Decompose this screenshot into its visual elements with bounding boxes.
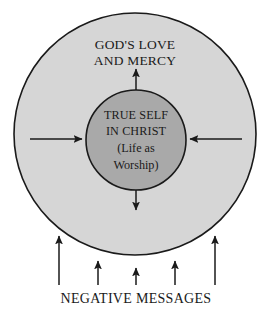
inner-label-line4: Worship) (113, 158, 158, 172)
inner-label-line2: IN CHRIST (106, 124, 167, 138)
diagram-container: GOD'S LOVE AND MERCY TRUE SELF IN CHRIST… (0, 0, 272, 312)
outer-label-line2: AND MERCY (94, 53, 176, 68)
bottom-label-negative-messages: NEGATIVE MESSAGES (61, 291, 212, 306)
outer-label-line1: GOD'S LOVE (95, 37, 176, 52)
inner-label-line1: TRUE SELF (104, 108, 168, 122)
inner-label-line3: (Life as (117, 141, 155, 155)
concentric-circle-diagram: GOD'S LOVE AND MERCY TRUE SELF IN CHRIST… (0, 0, 272, 312)
